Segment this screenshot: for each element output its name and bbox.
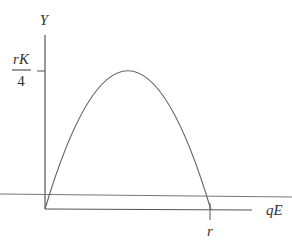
- x-axis: [45, 209, 252, 210]
- y-tick-label-denominator: 4: [17, 73, 25, 89]
- yield-effort-chart: Y rK 4 r qE: [0, 0, 292, 247]
- yield-curve: [45, 71, 211, 210]
- x-axis-label: qE: [266, 202, 283, 218]
- cost-line: [0, 194, 292, 197]
- y-axis-label: Y: [40, 12, 50, 28]
- x-tick-label: r: [207, 223, 213, 239]
- y-tick-label-numerator: rK: [13, 51, 30, 67]
